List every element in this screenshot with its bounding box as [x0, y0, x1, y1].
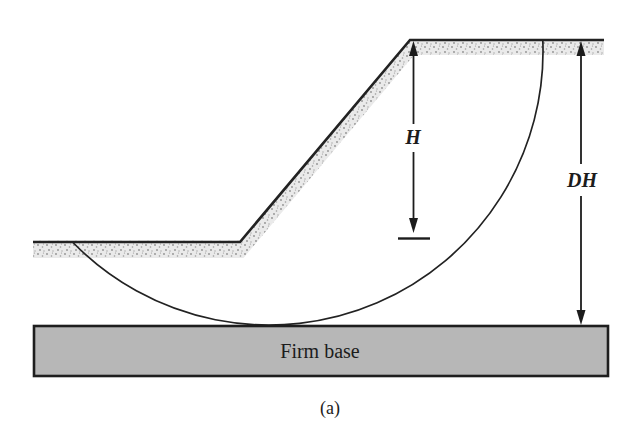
slip-circle-arc: [73, 40, 544, 325]
diagram-canvas: [0, 0, 639, 435]
firm-base-label: Firm base: [230, 341, 410, 361]
figure-caption: (a): [300, 399, 360, 417]
slope-height-label: H: [396, 127, 430, 147]
slope-stability-figure: H DH Firm base (a): [0, 0, 639, 435]
ground-surface-line: [33, 40, 604, 242]
depth-to-firm-base-label: DH: [558, 170, 606, 190]
